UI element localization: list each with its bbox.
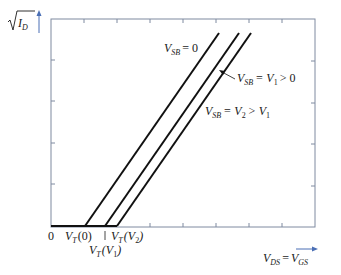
label-vsb-0: VSB= 0	[164, 41, 198, 57]
curve-vsb-v2	[117, 33, 251, 226]
left-ticks	[51, 60, 55, 184]
svg-text:ID: ID	[17, 16, 28, 32]
y-axis-arrow-icon	[37, 10, 42, 16]
y-axis-label: ID	[8, 11, 35, 32]
x-axis-label: VDS=VGS	[263, 251, 308, 267]
origin-label: 0	[48, 229, 54, 243]
label-vsb-v1: VSB= V1> 0	[237, 71, 295, 87]
label-vsb-v2: VSB= V2> V1	[205, 104, 270, 120]
bottom-ticks	[150, 223, 282, 227]
body-effect-diagram: ID VSB= 0 VSB= V1> 0 VSB= V2> V1 0 VT(0)…	[0, 0, 341, 275]
right-ticks	[311, 61, 315, 186]
x-axis-arrow-icon	[312, 247, 318, 252]
curve-vsb-0	[85, 33, 219, 226]
label-vt-v1: VT(V1)	[89, 243, 121, 259]
curve-vsb-v1	[105, 33, 239, 226]
top-ticks	[84, 19, 282, 23]
label-vt-0: VT(0)	[65, 229, 92, 245]
label-vt-v2: VT(V2)	[111, 229, 143, 245]
